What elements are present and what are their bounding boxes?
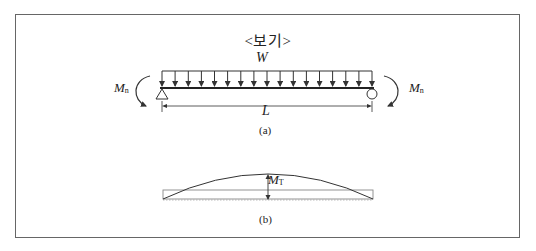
moment-subscript: T [279,178,284,187]
moment-subscript: n [420,86,424,95]
caption-a: (a) [259,124,271,136]
moment-subscript: n [125,86,129,95]
left-moment-label: Mn [114,80,129,96]
right-moment-arrow-icon [384,76,398,106]
right-moment-label: Mn [409,80,424,96]
moment-symbol: M [409,80,420,95]
pin-support-icon [156,89,168,99]
load-label: W [256,50,268,66]
distributed-load [162,71,372,86]
moment-symbol: M [114,80,125,95]
max-moment-label: MT [268,172,284,188]
span-label: L [262,103,270,119]
roller-support-icon [367,89,377,99]
moment-symbol: M [268,172,279,187]
figure-title: <보기> [0,29,536,50]
left-moment-arrow-icon [136,76,150,106]
caption-b: (b) [259,213,272,225]
